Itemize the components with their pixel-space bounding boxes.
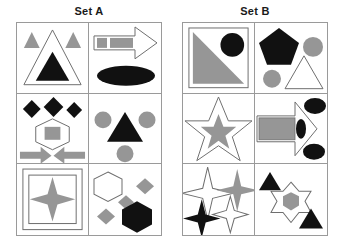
set-a-cell-row1-col1	[17, 23, 89, 94]
gray-rectangle-wide-icon	[110, 38, 133, 48]
gray-four-point-star-icon	[217, 169, 254, 211]
gray-circle-left-icon	[95, 111, 112, 128]
black-ellipse-icon	[97, 66, 155, 86]
black-diamond-left-icon	[23, 100, 41, 118]
gray-circle-bottom-icon	[117, 145, 134, 162]
cell-shapes	[17, 164, 88, 235]
black-diamond-top-icon	[44, 97, 64, 117]
set-b-cell-row1-col2	[255, 23, 327, 94]
gray-diamond-left-icon	[97, 209, 115, 225]
set-a-block: Set A	[16, 0, 162, 236]
cell-shapes	[255, 164, 327, 235]
black-four-point-star-icon	[183, 200, 220, 235]
cell-shapes	[17, 23, 88, 93]
set-a-cell-row2-col1	[17, 94, 89, 165]
set-b-cell-row2-col2	[255, 94, 327, 165]
black-circle-icon	[220, 33, 244, 57]
cell-shapes	[17, 94, 88, 164]
set-b-cell-row1-col1	[183, 23, 255, 94]
gray-circle-left-icon	[263, 70, 281, 88]
set-a-title: Set A	[16, 0, 162, 22]
cell-shapes	[89, 164, 161, 235]
set-b-grid	[182, 22, 328, 236]
black-ellipse-bottom-icon	[303, 143, 325, 159]
set-a-cell-row1-col2	[89, 23, 161, 94]
set-b-cell-row2-col1	[183, 94, 255, 165]
cell-shapes	[255, 23, 327, 93]
black-pentagon-icon	[259, 28, 299, 65]
set-b-title: Set B	[182, 0, 328, 22]
white-hexagon-outline-icon	[94, 172, 122, 201]
gray-arrow-left-icon	[53, 146, 85, 163]
gray-rectangle-icon	[259, 118, 295, 140]
set-a-cell-row2-col2	[89, 94, 161, 165]
set-a-cell-row3-col1	[17, 164, 89, 235]
set-a-cell-row3-col2	[89, 164, 161, 235]
set-b-block: Set B	[182, 0, 328, 236]
cell-shapes	[183, 164, 254, 235]
cell-shapes	[89, 23, 161, 93]
set-b-cell-row3-col2	[255, 164, 327, 235]
gray-rectangle-small-icon	[97, 38, 107, 48]
gray-triangle-small-left-icon	[24, 32, 40, 48]
black-diamond-right-icon	[66, 102, 82, 118]
black-ellipse-middle-icon	[296, 119, 306, 139]
puzzle-figure: Set A	[0, 0, 338, 248]
cell-shapes	[89, 94, 161, 164]
cell-shapes	[183, 94, 254, 164]
cell-shapes	[255, 94, 327, 164]
black-triangle-large-icon	[107, 112, 143, 142]
gray-arrow-right-icon	[20, 146, 52, 163]
black-ellipse-top-icon	[304, 98, 326, 114]
set-b-cell-row3-col1	[183, 164, 255, 235]
gray-circle-right-icon	[303, 37, 323, 57]
cell-shapes	[183, 23, 254, 93]
gray-diamond-right-icon	[136, 178, 154, 194]
gray-square-icon	[45, 127, 61, 140]
white-four-point-star-small-outline-icon	[213, 197, 249, 233]
black-triangle-top-left-icon	[259, 172, 281, 190]
gray-triangle-small-right-icon	[65, 32, 81, 48]
gray-circle-right-icon	[139, 111, 156, 128]
set-a-grid	[16, 22, 162, 236]
